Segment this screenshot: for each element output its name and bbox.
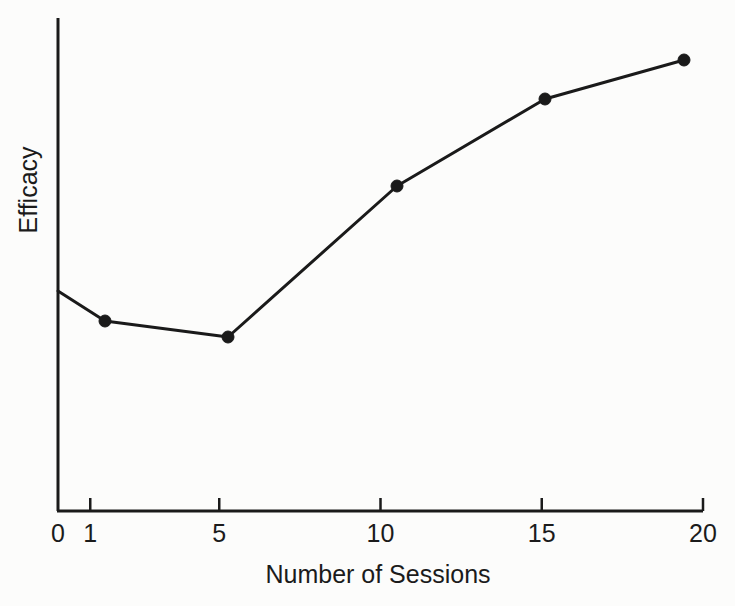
x-tick-label-1: 1 — [83, 519, 97, 548]
x-axis-ticks — [90, 498, 703, 511]
y-axis-label: Efficacy — [14, 146, 43, 233]
x-tick-label-0: 0 — [51, 519, 65, 548]
chart-axes — [57, 18, 703, 511]
x-tick-label-10: 10 — [367, 519, 395, 548]
x-tick-label-15: 15 — [528, 519, 556, 548]
chart-figure: 015101520 Number of Sessions Efficacy — [0, 0, 735, 606]
x-tick-label-5: 5 — [212, 519, 226, 548]
line-chart-plot — [0, 0, 735, 606]
x-axis-label: Number of Sessions — [265, 560, 490, 589]
data-point-markers — [99, 54, 690, 343]
data-series-efficacy — [58, 60, 684, 337]
x-tick-label-20: 20 — [689, 519, 717, 548]
